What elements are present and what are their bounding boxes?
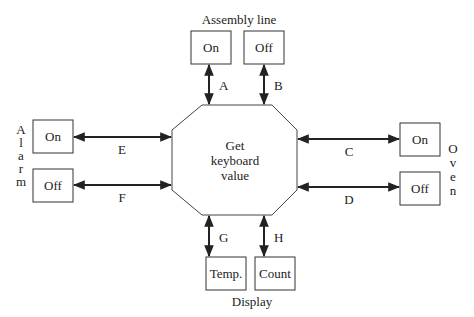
display-temp-label: Temp. <box>210 266 243 281</box>
assembly-off-label: Off <box>255 40 273 55</box>
oven-letter-2: v <box>450 155 457 170</box>
label-c: C <box>345 144 354 159</box>
label-d: D <box>344 192 353 207</box>
oven-letter-4: n <box>450 183 457 198</box>
display-count-label: Count <box>259 266 291 281</box>
oven-on-label: On <box>412 132 428 147</box>
label-a: A <box>219 78 229 93</box>
display-title: Display <box>232 294 273 309</box>
label-e: E <box>118 142 126 157</box>
label-h: H <box>274 230 283 245</box>
alarm-letter-5: m <box>16 174 26 189</box>
center-line-3: value <box>221 168 249 183</box>
label-g: G <box>219 230 228 245</box>
alarm-on-label: On <box>45 129 61 144</box>
label-f: F <box>118 190 125 205</box>
oven-off-label: Off <box>411 181 429 196</box>
oven-letter-3: e <box>450 169 456 184</box>
center-line-2: keyboard <box>211 153 260 168</box>
center-line-1: Get <box>226 138 245 153</box>
assembly-line-title: Assembly line <box>202 12 277 27</box>
label-b: B <box>274 78 283 93</box>
oven-letter-1: O <box>448 141 457 156</box>
assembly-on-label: On <box>203 40 219 55</box>
alarm-off-label: Off <box>44 178 62 193</box>
state-diagram: Get keyboard value Assembly line On Off … <box>0 0 474 317</box>
